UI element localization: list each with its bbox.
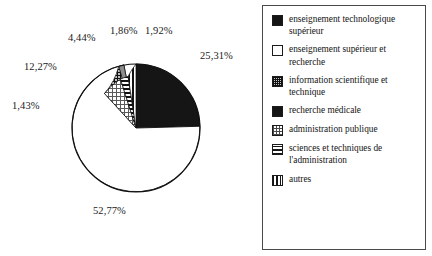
legend-swatch-solid-black-icon [272,15,283,26]
pie-label-25: 25,31% [200,50,233,61]
legend-swatch-vertical-stripes-icon [272,175,283,186]
legend-item-administration-publique[interactable]: administration publique [272,123,419,136]
legend-item-enseignement-technologique-superieur[interactable]: enseignement technologique supérieur [272,13,419,37]
legend-label: recherche médicale [289,104,361,116]
legend-swatch-checker-icon [272,125,283,136]
legend-item-enseignement-superieur-et-recherche[interactable]: enseignement supérieur et recherche [272,43,419,67]
legend-label: sciences et techniques de l'administrati… [289,142,419,166]
pie-chart [0,0,258,256]
pie-label-4-44: 4,44% [68,32,96,43]
chart-page: 25,31% 52,77% 12,27% 1,43% 4,44% 1,86% 1… [0,0,432,256]
pie-label-52: 52,77% [93,205,126,216]
pie-slice-enseignement-technologique-superieur[interactable] [136,64,200,128]
legend-label: enseignement technologique supérieur [289,13,419,37]
legend: enseignement technologique supérieur ens… [262,5,426,250]
pie-label-12: 12,27% [24,61,57,72]
pie-label-1-43: 1,43% [12,100,40,111]
legend-label: administration publique [289,123,378,135]
legend-swatch-white-icon [272,45,283,56]
legend-item-autres[interactable]: autres [272,173,419,186]
legend-swatch-horizontal-stripes-icon [272,144,283,155]
pie-chart-area: 25,31% 52,77% 12,27% 1,43% 4,44% 1,86% 1… [0,0,258,256]
legend-item-recherche-medicale[interactable]: recherche médicale [272,104,419,117]
legend-swatch-crosshatch-icon [272,76,283,87]
pie-label-1-92: 1,92% [145,25,173,36]
legend-label: information scientifique et technique [289,74,419,98]
legend-swatch-gray-solid-icon [272,106,283,117]
legend-label: autres [289,173,311,185]
pie-label-1-86: 1,86% [110,25,138,36]
legend-item-sciences-et-techniques-de-l-administration[interactable]: sciences et techniques de l'administrati… [272,142,419,166]
legend-label: enseignement supérieur et recherche [289,43,419,67]
legend-item-information-scientifique-et-technique[interactable]: information scientifique et technique [272,74,419,98]
